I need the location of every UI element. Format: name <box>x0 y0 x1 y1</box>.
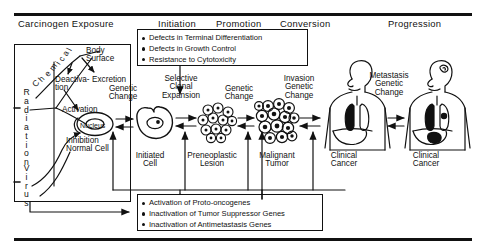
figure-canvas: Carcinogen Exposure Initiation Promotion… <box>0 0 485 251</box>
diagram-line-art <box>0 0 485 251</box>
